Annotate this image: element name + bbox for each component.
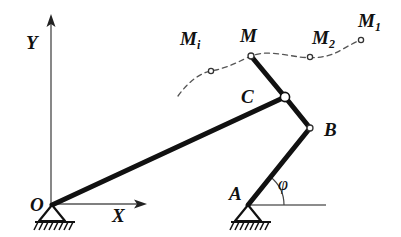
coordinate-axes xyxy=(47,14,148,209)
label-angle-phi: φ xyxy=(278,174,288,194)
label-point-a: A xyxy=(228,183,242,204)
trajectory-marker-mi xyxy=(208,68,213,73)
linkage-bars xyxy=(52,56,310,205)
label-point-o: O xyxy=(30,194,44,215)
label-point-m2: M2 xyxy=(311,27,335,51)
label-point-mi-subscript: i xyxy=(197,38,201,52)
label-point-m2-base: M xyxy=(311,27,330,48)
label-point-c: C xyxy=(241,86,254,107)
label-point-m: M xyxy=(239,25,258,46)
label-point-m2-subscript: 2 xyxy=(328,37,335,51)
label-point-m1: M1 xyxy=(357,10,381,34)
linkage-diagram: Y X O A B C M Mi M2 M1 φ xyxy=(0,0,401,237)
joint-b-marker xyxy=(307,125,313,131)
link-oc-bar xyxy=(52,97,285,205)
label-point-m1-base: M xyxy=(357,10,376,31)
support-o-hatching xyxy=(34,222,73,230)
label-point-mi: Mi xyxy=(179,28,201,52)
link-cb-bar xyxy=(285,97,310,128)
link-cm-bar xyxy=(251,56,285,97)
joint-c-marker xyxy=(280,92,289,101)
joint-m-marker xyxy=(248,53,254,59)
support-a-triangle xyxy=(235,205,261,221)
label-point-m1-subscript: 1 xyxy=(375,20,381,34)
label-y-axis: Y xyxy=(26,32,40,53)
trajectory-marker-m1 xyxy=(358,37,363,42)
label-point-b: B xyxy=(323,119,337,140)
support-a-hatching xyxy=(230,222,269,230)
label-x-axis: X xyxy=(111,205,126,226)
support-a xyxy=(230,205,271,230)
label-point-mi-base: M xyxy=(179,28,198,49)
diagram-canvas: Y X O A B C M Mi M2 M1 φ xyxy=(0,0,401,237)
trajectory-marker-m2 xyxy=(307,54,312,59)
